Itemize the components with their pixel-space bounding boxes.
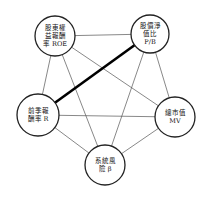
node-label-line: 酬率 R: [28, 115, 49, 123]
node-label-line: 險 β: [99, 165, 112, 173]
node-label-line: 系統風: [95, 157, 116, 165]
node-label-line: 益報酬: [45, 32, 66, 40]
node-label-roe: 股東權益報酬率 ROE: [35, 16, 75, 56]
node-label-line: 值比: [143, 30, 157, 38]
node-label-beta: 系統風險 β: [85, 145, 125, 185]
node-label-line: 股價淨: [140, 22, 161, 30]
node-label-line: 股東權: [45, 24, 66, 32]
node-label-pb: 股價淨值比P/B: [131, 15, 169, 53]
node-label-line: P/B: [144, 38, 155, 46]
node-label-line: 率 ROE: [43, 40, 67, 48]
node-label-line: MV: [169, 117, 180, 125]
node-label-mv: 總市值MV: [155, 97, 195, 137]
node-label-line: 總市值: [165, 109, 186, 117]
node-label-r: 前季報酬率 R: [17, 94, 59, 136]
node-label-line: 前季報: [28, 107, 49, 115]
